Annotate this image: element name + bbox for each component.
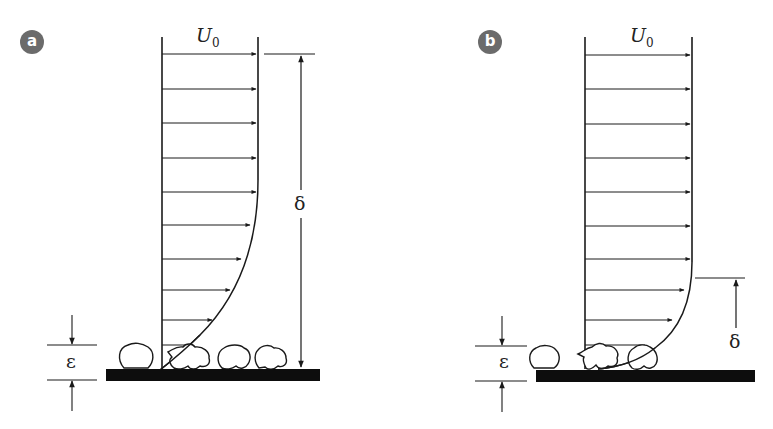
panel-b-epsilon-label: ε [499,350,509,372]
panel-b-badge: b [478,30,502,54]
panel-a-badge: a [20,30,44,54]
boundary-layer-figure: a U0 δ ε b U0 δ ε [0,0,773,429]
panel-b-plate [536,370,755,382]
panel-b-velocity-profile-curve [598,262,692,369]
panel-b-velocity-arrows [585,55,690,345]
panel-a-plate [106,369,320,381]
panel-a-velocity-profile-curve [160,180,258,370]
panel-a-freestream-label: U0 [196,24,220,50]
panel-a-velocity-arrows [162,54,256,345]
diagram-drawing [0,0,773,429]
panel-a-epsilon-label: ε [66,350,76,372]
panel-a-drawing [47,37,320,411]
panel-b-roughness-elements [530,343,657,369]
panel-b-drawing [475,37,755,412]
panel-b-delta-label: δ [729,330,740,352]
panel-b-freestream-label: U0 [630,24,654,50]
panel-a-roughness-elements [119,343,286,369]
panel-a-delta-label: δ [294,190,305,216]
